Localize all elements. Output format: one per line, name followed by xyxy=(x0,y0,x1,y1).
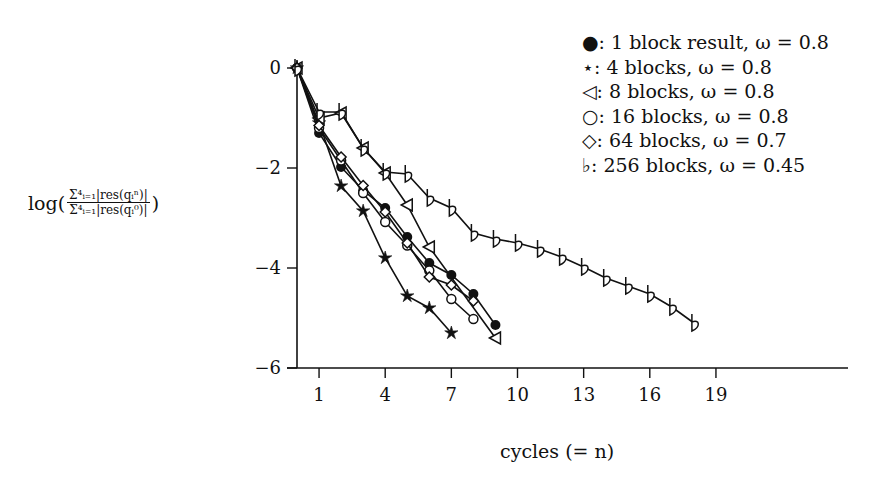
legend-label: 64 blocks, ω = 0.7 xyxy=(609,129,787,151)
open-circle-icon: ○: xyxy=(582,105,605,127)
diamond-icon: ◇: xyxy=(582,129,603,151)
x-tick-label: 16 xyxy=(638,384,661,405)
triangle-left-icon: ◁: xyxy=(582,80,603,102)
flat-icon: ♭: xyxy=(582,154,597,176)
flat-marker xyxy=(493,230,499,247)
y-axis-label-denominator: Σ⁴ᵢ₌₁|res(qᵢ⁰)| xyxy=(67,203,149,217)
legend-item-256-blocks: ♭: 256 blocks, ω = 0.45 xyxy=(582,153,829,178)
x-tick-label: 7 xyxy=(446,384,457,405)
legend-item-8-blocks: ◁: 8 blocks, ω = 0.8 xyxy=(582,79,829,104)
y-axis-label-fraction: Σ⁴ᵢ₌₁|res(qᵢⁿ)| Σ⁴ᵢ₌₁|res(qᵢ⁰)| xyxy=(67,188,150,217)
x-tick-label: 13 xyxy=(572,384,595,405)
triangle-marker xyxy=(401,199,412,211)
legend-label: 256 blocks, ω = 0.45 xyxy=(603,154,805,176)
x-tick-label: 1 xyxy=(313,384,324,405)
x-tick-label: 10 xyxy=(506,384,529,405)
flat-marker xyxy=(560,248,566,265)
triangle-marker xyxy=(489,332,500,344)
open-circle-marker xyxy=(469,315,478,324)
star-marker xyxy=(379,251,392,264)
flat-marker xyxy=(427,189,433,206)
filled-circle-marker xyxy=(490,320,500,330)
flat-marker xyxy=(582,258,588,275)
legend: ●: 1 block result, ω = 0.8 ⋆: 4 blocks, … xyxy=(582,30,829,177)
y-tick-label: −6 xyxy=(254,357,281,378)
flat-marker xyxy=(670,298,676,315)
legend-item-1-block: ●: 1 block result, ω = 0.8 xyxy=(582,30,829,55)
x-tick-label: 19 xyxy=(704,384,727,405)
legend-label: 8 blocks, ω = 0.8 xyxy=(609,80,775,102)
x-axis-label: cycles (= n) xyxy=(500,440,614,462)
legend-item-4-blocks: ⋆: 4 blocks, ω = 0.8 xyxy=(582,55,829,80)
series-filled-circle xyxy=(292,63,500,330)
legend-label: 16 blocks, ω = 0.8 xyxy=(611,105,789,127)
flat-marker xyxy=(516,234,522,251)
open-circle-marker xyxy=(447,295,456,304)
flat-marker xyxy=(648,285,654,302)
y-tick-label: −2 xyxy=(254,157,281,178)
flat-marker xyxy=(538,240,544,257)
legend-label: 4 blocks, ω = 0.8 xyxy=(606,56,772,78)
legend-item-64-blocks: ◇: 64 blocks, ω = 0.7 xyxy=(582,128,829,153)
flat-marker xyxy=(692,314,698,331)
star-marker xyxy=(401,289,414,302)
star-marker xyxy=(334,179,347,192)
y-axis-label-prefix: log( xyxy=(28,192,65,214)
series-diamond xyxy=(292,63,478,306)
open-circle-marker xyxy=(381,218,390,227)
flat-marker xyxy=(471,224,477,241)
y-tick-label: −4 xyxy=(254,257,281,278)
x-tick-label: 4 xyxy=(379,384,390,405)
filled-circle-icon: ●: xyxy=(582,31,605,53)
y-axis-label-numerator: Σ⁴ᵢ₌₁|res(qᵢⁿ)| xyxy=(67,188,150,203)
y-axis-label-suffix: ) xyxy=(152,192,159,214)
legend-label: 1 block result, ω = 0.8 xyxy=(611,31,829,53)
star-marker xyxy=(423,301,436,314)
flat-marker xyxy=(604,269,610,286)
star-icon: ⋆: xyxy=(582,56,600,78)
flat-marker xyxy=(405,165,411,182)
y-tick-label: 0 xyxy=(270,57,281,78)
legend-item-16-blocks: ○: 16 blocks, ω = 0.8 xyxy=(582,104,829,129)
flat-marker xyxy=(626,277,632,294)
y-axis-label: log( Σ⁴ᵢ₌₁|res(qᵢⁿ)| Σ⁴ᵢ₌₁|res(qᵢ⁰)| ) xyxy=(28,188,159,217)
triangle-marker xyxy=(423,241,434,253)
flat-marker xyxy=(449,199,455,216)
